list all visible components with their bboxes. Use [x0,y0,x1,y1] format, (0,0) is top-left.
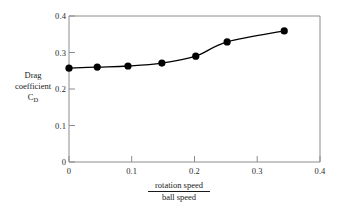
data-point-6 [281,27,288,34]
x-tick-label-3: 0.3 [252,166,263,176]
x-axis-title: rotation speed ball speed [124,180,234,202]
y-tick-label-1: 0.1 [44,121,66,131]
x-axis-title-numerator: rotation speed [124,180,234,191]
data-point-3 [158,59,165,66]
x-axis-title-denominator: ball speed [124,192,234,202]
x-axis-ticks [69,156,320,162]
data-point-5 [224,38,231,45]
y-axis-ticks [69,16,75,162]
drag-coefficient-chart: 0 0.1 0.2 0.3 0.4 0 0.1 0.2 0.3 0.4 Drag… [0,0,340,211]
data-point-1 [94,64,101,71]
y-tick-label-0: 0 [52,157,66,167]
y-tick-label-3: 0.3 [44,48,66,58]
x-tick-label-1: 0.1 [126,166,137,176]
x-tick-label-4: 0.4 [315,166,326,176]
y-axis-symbol-subscript: D [33,96,38,103]
y-axis-title: Drag coefficient CD [2,70,64,105]
plot-frame [69,16,320,162]
data-markers [65,27,287,71]
y-axis-title-line1: Drag [2,70,64,81]
y-axis-title-line2: coefficient [2,81,64,92]
x-tick-label-0: 0 [67,166,71,176]
y-axis-title-line3: CD [2,92,64,105]
data-point-0 [65,65,72,72]
data-curve [69,31,284,68]
x-tick-label-2: 0.2 [189,166,200,176]
data-point-4 [192,53,199,60]
y-tick-label-4: 0.4 [44,11,66,21]
data-point-2 [124,62,131,69]
